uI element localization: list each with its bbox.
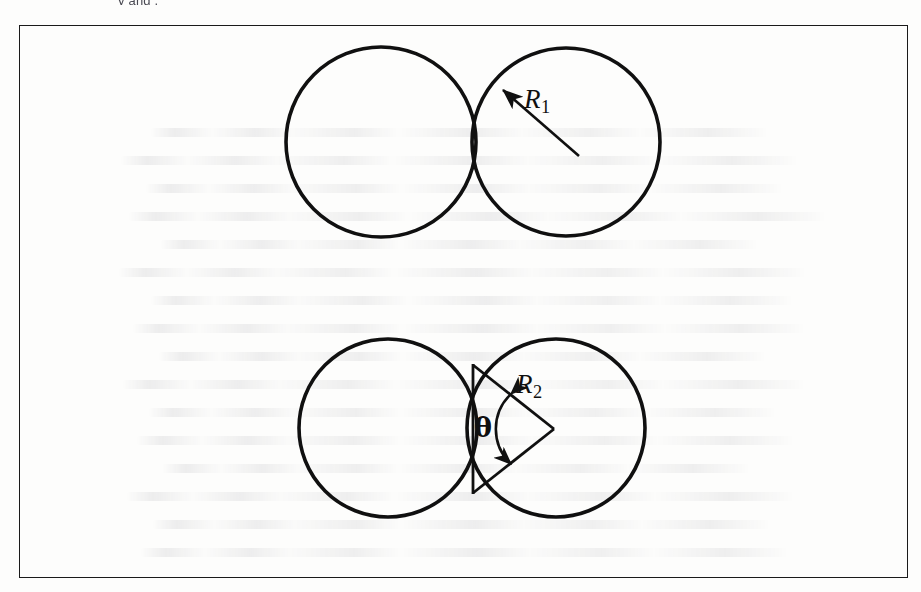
label-r2-letter: R — [516, 369, 533, 399]
figure-border — [19, 25, 908, 578]
cut-off-header-text: y and . — [118, 0, 538, 5]
label-r2-subscript: 2 — [533, 382, 542, 402]
label-theta: θ — [474, 414, 492, 441]
label-r1: R1 — [524, 86, 550, 117]
label-r1-letter: R — [524, 84, 541, 114]
label-r1-subscript: 1 — [541, 97, 550, 117]
label-r2: R2 — [516, 371, 542, 402]
